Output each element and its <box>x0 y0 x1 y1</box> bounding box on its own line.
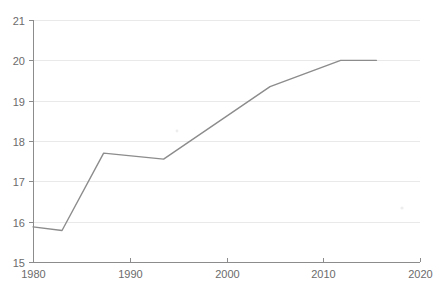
line-chart: 21201918171615 19801990200020102020 <box>0 0 436 294</box>
image-speck-2 <box>400 206 403 209</box>
y-tick-label-18: 18 <box>13 136 25 148</box>
chart-canvas: 21201918171615 19801990200020102020 <box>0 0 436 294</box>
y-tick-label-16: 16 <box>13 217 25 229</box>
y-tick-label-21: 21 <box>13 15 25 27</box>
x-tick-label-2000: 2000 <box>215 268 239 280</box>
y-tick-label-15: 15 <box>13 257 25 269</box>
x-tick-label-2010: 2010 <box>311 268 335 280</box>
y-tick-labels-group: 21201918171615 <box>13 15 25 269</box>
x-tick-label-1990: 1990 <box>118 268 142 280</box>
y-tick-label-17: 17 <box>13 176 25 188</box>
image-speck-1 <box>176 130 179 133</box>
series-line-1 <box>33 60 376 230</box>
x-tick-labels-group: 19801990200020102020 <box>21 268 432 280</box>
gridlines-group <box>33 21 420 263</box>
series-group <box>33 60 376 230</box>
x-tick-label-1980: 1980 <box>21 268 45 280</box>
y-tick-label-20: 20 <box>13 55 25 67</box>
x-tick-label-2020: 2020 <box>408 268 432 280</box>
y-tick-label-19: 19 <box>13 96 25 108</box>
